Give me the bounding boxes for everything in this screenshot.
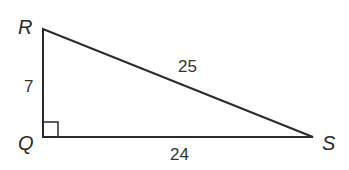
side-label-qs: 24	[170, 145, 189, 164]
right-angle-marker	[43, 122, 58, 137]
side-label-rs: 25	[178, 57, 197, 76]
vertex-label-q: Q	[18, 132, 34, 154]
side-label-rq: 7	[24, 77, 33, 96]
triangle-diagram: R Q S 7 24 25	[0, 0, 349, 170]
vertex-label-r: R	[18, 16, 32, 38]
triangle-rqs	[43, 29, 313, 137]
vertex-label-s: S	[322, 132, 336, 154]
